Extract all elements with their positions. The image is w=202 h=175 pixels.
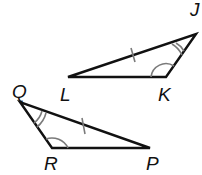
vertex-label-j: J [189, 0, 200, 20]
vertex-label-l: L [60, 84, 71, 105]
triangle-qrp: Q R P [12, 81, 159, 174]
double-arc-q-inner [34, 111, 42, 123]
vertex-label-r: R [44, 153, 58, 174]
vertex-label-k: K [158, 84, 172, 105]
double-arc-q-outer [37, 113, 46, 127]
triangle-jkl-outline [68, 34, 196, 77]
diagram-canvas: J K L Q R P [0, 0, 202, 175]
triangle-jkl: J K L [60, 0, 200, 105]
triangles-svg: J K L Q R P [0, 0, 202, 175]
vertex-label-p: P [146, 153, 159, 174]
vertex-label-q: Q [12, 81, 27, 102]
